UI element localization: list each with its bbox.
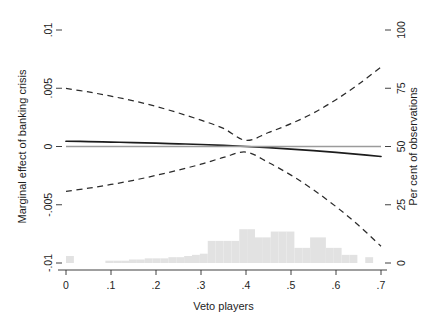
y-axis-right-title: Per cent of observations [407, 87, 419, 206]
series-line-solid [66, 141, 381, 156]
y-axis-left-tick-label: 0 [42, 143, 54, 149]
histogram-bar [224, 241, 232, 263]
histogram-bar [121, 261, 129, 263]
histogram-bar [318, 237, 326, 263]
histogram-bar [66, 256, 74, 263]
histogram-bars [66, 229, 373, 263]
histogram-bar [247, 229, 255, 263]
series-line-dashed [66, 152, 381, 246]
histogram-bar [208, 241, 216, 263]
histogram-bar [161, 258, 169, 263]
series-lines [66, 67, 381, 246]
y-axis-left-tick-label: .005 [42, 78, 54, 99]
histogram-bar [113, 261, 121, 263]
histogram-bar [176, 257, 184, 263]
histogram-bar [342, 255, 350, 263]
series-line-dashed [66, 67, 381, 140]
histogram-bar [239, 229, 247, 263]
y-axis-left-title: Marginal effect of banking crisis [16, 69, 28, 223]
y-axis-right-tick-label: 0 [395, 260, 407, 266]
x-axis-tick-label: .5 [287, 279, 296, 291]
chart-container: 0.1.2.3.4.5.6.7 .01.0050-.005-.01 100755… [0, 0, 440, 325]
y-axis-right-tick-label: 25 [395, 199, 407, 211]
histogram-bar [287, 232, 295, 263]
y-axis-left-tick-label: -.01 [42, 254, 54, 272]
histogram-bar [334, 248, 342, 263]
histogram-bar [200, 254, 208, 263]
y-axis-left-tick-label: -.005 [42, 193, 54, 217]
histogram-bar [255, 237, 263, 263]
y-axis-right-tick-label: 50 [395, 141, 407, 153]
y-axis-right-tick-label: 75 [395, 82, 407, 94]
histogram-bar [184, 256, 192, 263]
y-axis-right-tick-label: 100 [395, 21, 407, 39]
histogram-bar [105, 261, 113, 263]
histogram-bar [310, 237, 318, 263]
x-axis-tick-label: .7 [377, 279, 386, 291]
x-axis-tick-label: 0 [63, 279, 69, 291]
histogram-bar [168, 257, 176, 263]
histogram-bar [137, 260, 145, 264]
x-axis-tick-label: .1 [107, 279, 116, 291]
histogram-bar [350, 255, 358, 263]
y-axis-right-ticks: 1007550250 [385, 21, 407, 266]
x-axis-tick-label: .2 [152, 279, 161, 291]
histogram-bar [192, 255, 200, 263]
histogram-bar [294, 248, 302, 263]
x-axis-tick-label: .3 [197, 279, 206, 291]
histogram-bar [365, 257, 373, 263]
axis-titles: Veto players Marginal effect of banking … [16, 69, 419, 312]
histogram-bar [129, 260, 137, 264]
histogram-bar [279, 232, 287, 263]
x-axis-title: Veto players [193, 300, 254, 312]
x-axis-tick-label: .6 [332, 279, 341, 291]
histogram-bar [302, 248, 310, 263]
histogram-bar [271, 232, 279, 263]
histogram-bar [263, 237, 271, 263]
x-axis-ticks: 0.1.2.3.4.5.6.7 [63, 270, 385, 291]
marginal-effect-plot: 0.1.2.3.4.5.6.7 .01.0050-.005-.01 100755… [0, 0, 440, 325]
y-axis-left-tick-label: .01 [42, 23, 54, 38]
y-axis-left-ticks: .01.0050-.005-.01 [42, 23, 62, 272]
histogram-bar [145, 258, 153, 263]
histogram-bar [153, 258, 161, 263]
histogram-bar [231, 241, 239, 263]
x-axis-tick-label: .4 [242, 279, 251, 291]
histogram-bar [326, 248, 334, 263]
histogram-bar [216, 241, 224, 263]
